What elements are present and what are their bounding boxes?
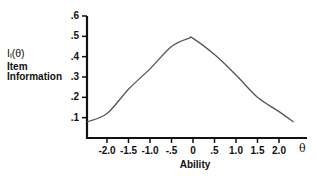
information-curve (88, 37, 294, 122)
y-tick-label: .1 (59, 113, 79, 123)
axes (82, 16, 307, 143)
y-tick-label: .4 (59, 52, 79, 62)
plot-area (0, 0, 316, 184)
x-tick-label: 2.0 (266, 146, 292, 156)
x-axis-theta-symbol: θ (299, 143, 306, 154)
y-tick-label: .6 (59, 11, 79, 21)
y-tick-label: .3 (59, 72, 79, 82)
x-axis-title: Ability (165, 160, 225, 170)
y-tick-label: .2 (59, 92, 79, 102)
y-tick-label: .5 (59, 31, 79, 41)
item-information-chart: Ii(θ) Item Information .1.2.3.4.5.6 -2.0… (0, 0, 316, 184)
